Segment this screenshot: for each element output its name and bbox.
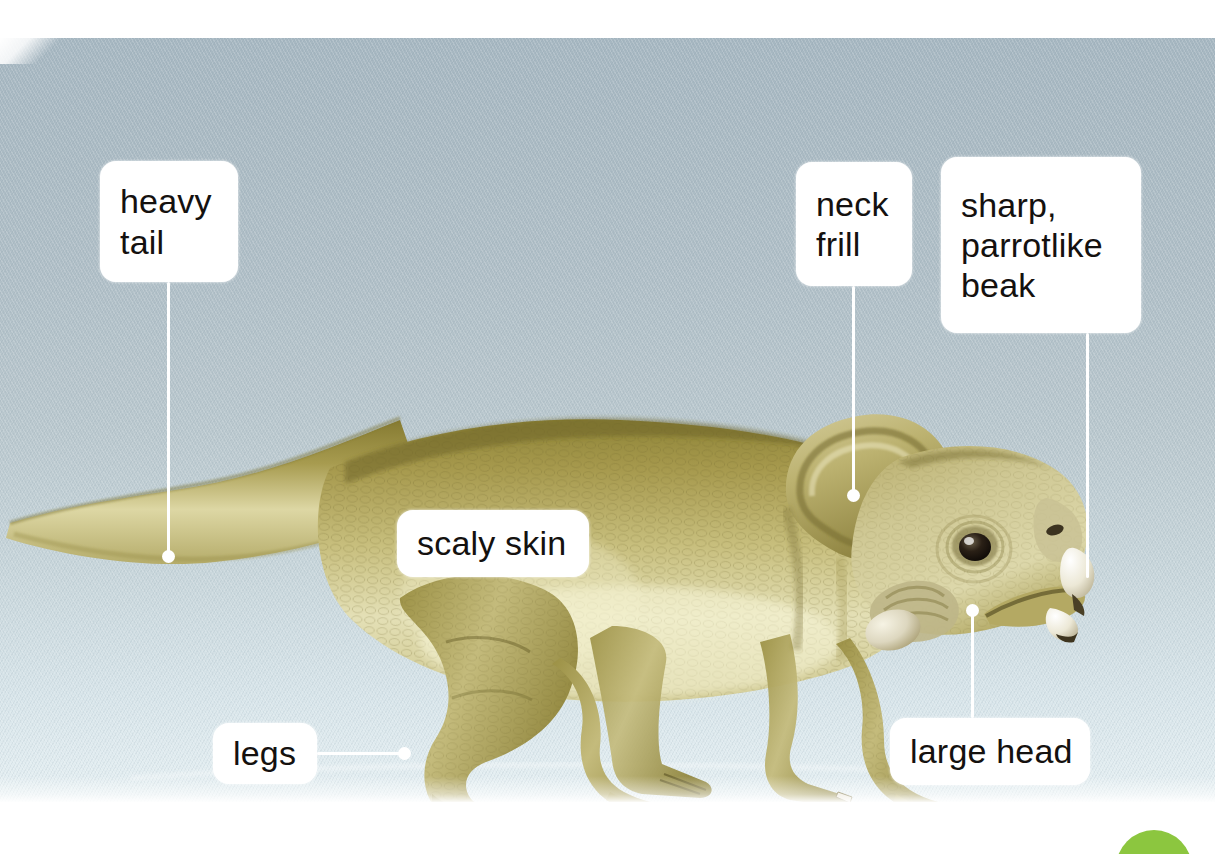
callout-text-large-head: large head [910, 731, 1073, 771]
leader-line-heavy-tail [167, 282, 170, 556]
leader-dot-heavy-tail [162, 550, 175, 563]
dino-eye [959, 533, 991, 561]
dinosaur-illustration [0, 38, 1215, 802]
leader-line-neck-frill [852, 286, 855, 495]
leader-line-large-head [971, 610, 974, 718]
illustration-plate [0, 38, 1215, 802]
callout-scaly-skin: scaly skin [397, 510, 589, 577]
callout-legs: legs [213, 723, 317, 784]
leader-dot-large-head [966, 604, 979, 617]
leader-dot-neck-frill [847, 489, 860, 502]
callout-text-neck-frill: neck frill [816, 184, 889, 264]
callout-text-scaly-skin: scaly skin [417, 523, 566, 563]
callout-sharp-parrotlike-beak: sharp, parrotlike beak [941, 157, 1141, 333]
beak-tip [1060, 548, 1094, 598]
leader-dot-legs [398, 747, 411, 760]
page-marker-circle [1116, 830, 1192, 854]
callout-text-legs: legs [233, 733, 296, 773]
callout-neck-frill: neck frill [796, 162, 912, 286]
leader-line-sharp-parrotlike-beak [1086, 333, 1089, 578]
page-root: heavy tailscaly skinlegsneck frillsharp,… [0, 0, 1215, 854]
callout-text-heavy-tail: heavy tail [120, 181, 212, 261]
leader-line-legs [317, 752, 404, 755]
callout-text-sharp-parrotlike-beak: sharp, parrotlike beak [961, 185, 1103, 305]
callout-heavy-tail: heavy tail [100, 161, 238, 282]
callout-large-head: large head [890, 718, 1090, 785]
